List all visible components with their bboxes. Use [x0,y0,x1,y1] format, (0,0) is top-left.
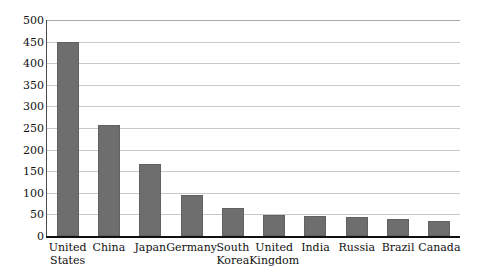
figure-caption-clipped [0,0,477,9]
bar [346,217,368,236]
gridline [47,20,460,21]
x-tick-label-line: Canada [413,241,465,254]
plot-area [47,20,460,236]
y-tick-label: 350 [2,80,44,91]
y-tick-label: 100 [2,188,44,199]
bar [57,42,79,236]
gridline [47,106,460,107]
bar [304,216,326,236]
gridline [47,85,460,86]
bar [181,195,203,236]
y-tick-label: 450 [2,37,44,48]
gridline [47,42,460,43]
y-tick-label: 50 [2,209,44,220]
y-tick-label: 0 [2,231,44,242]
bar [139,164,161,236]
y-tick-label: 400 [2,58,44,69]
x-axis-category-labels: UnitedStatesChinaJapanGermanySouthKoreaU… [47,241,460,279]
x-tick-label-line: States [42,254,94,267]
y-tick-label: 200 [2,145,44,156]
bar-chart: 500450400350300250200150100500 UnitedSta… [0,0,477,279]
bar [263,215,285,236]
y-tick-label: 150 [2,166,44,177]
bar [387,219,409,236]
y-axis-tick-labels: 500450400350300250200150100500 [0,0,44,279]
x-axis-line [46,236,460,238]
gridline [47,63,460,64]
x-tick-label: Canada [413,241,465,254]
y-tick-label: 250 [2,123,44,134]
bar [428,221,450,236]
x-tick-label-line: Kingdom [248,254,300,267]
bar [98,125,120,236]
y-tick-label: 300 [2,101,44,112]
y-tick-label: 500 [2,15,44,26]
bar [222,208,244,236]
